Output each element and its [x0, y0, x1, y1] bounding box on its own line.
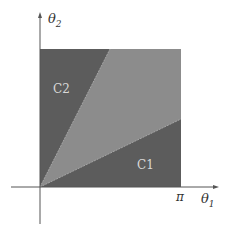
y-axis-symbol: θ — [48, 11, 56, 26]
y-axis-label: θ2 — [48, 11, 62, 29]
diagram-canvas — [0, 0, 229, 234]
region-label-c2: C2 — [53, 82, 70, 96]
y-axis-subscript: 2 — [56, 19, 62, 29]
x-axis-label: θ1 — [201, 191, 215, 209]
y-axis-arrow-icon — [38, 12, 42, 18]
region-label-c1: C1 — [137, 158, 154, 172]
x-axis-subscript: 1 — [209, 199, 215, 209]
x-tick-pi: π — [176, 190, 184, 204]
x-axis-symbol: θ — [201, 191, 209, 206]
x-axis-arrow-icon — [213, 185, 219, 189]
